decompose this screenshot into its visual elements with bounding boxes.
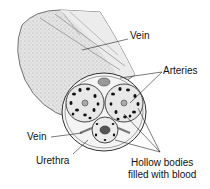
dorsal-vein [98,78,110,86]
artery-left [82,100,88,106]
artery-right [121,100,127,106]
label-arteries: Arteries [163,65,197,76]
label-vein-left: Vein [27,131,46,142]
label-filled-with-blood: filled with blood [128,169,196,180]
label-hollow-bodies: Hollow bodies [131,157,193,168]
urethra-shape [100,126,110,134]
label-vein-top: Vein [130,30,149,41]
label-urethra: Urethra [36,155,69,166]
